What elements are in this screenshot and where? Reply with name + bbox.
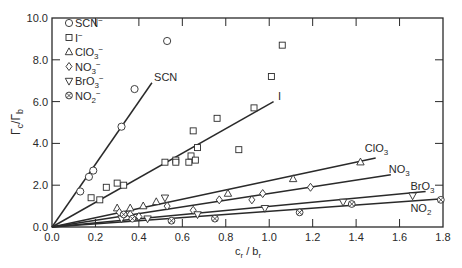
legend-entry: NO3− <box>75 60 101 76</box>
x-tick-label: 1.0 <box>262 231 277 243</box>
y-tick-label: 6.0 <box>33 96 48 108</box>
chart-container: 0.00.20.40.60.81.01.21.41.61.80.02.04.06… <box>0 0 462 268</box>
y-tick-label: 8.0 <box>33 54 48 66</box>
circle-marker-icon <box>77 188 84 195</box>
x-axis-label: cr / br <box>235 245 261 260</box>
y-tick-label: 4.0 <box>33 137 48 149</box>
square-marker-icon <box>103 184 109 190</box>
square-marker-icon <box>251 105 257 111</box>
square-marker-icon <box>279 42 285 48</box>
circle-marker-icon <box>118 123 125 130</box>
fit-line-NO2- <box>52 199 443 227</box>
fit-line-SCN- <box>52 83 152 227</box>
triangle-down-marker-icon <box>65 78 72 85</box>
x-tick-label: 0.4 <box>131 231 146 243</box>
diamond-marker-icon <box>260 190 266 198</box>
circle-marker-icon <box>65 19 72 26</box>
triangle-marker-icon <box>65 48 72 55</box>
square-marker-icon <box>173 159 179 165</box>
circle-x-marker-icon <box>129 215 136 222</box>
y-tick-label: 10.0 <box>27 12 48 24</box>
circle-marker-icon <box>90 167 97 174</box>
triangle-down-marker-icon <box>409 193 416 200</box>
circle-x-marker-icon <box>66 92 73 99</box>
circle-x-marker-icon <box>212 215 219 222</box>
square-marker-icon <box>97 197 103 203</box>
y-tick-label: 2.0 <box>33 179 48 191</box>
triangle-marker-icon <box>153 198 160 205</box>
y-tick-label: 0.0 <box>33 221 48 233</box>
circle-x-marker-icon <box>437 196 444 203</box>
square-marker-icon <box>162 159 168 165</box>
x-tick-label: 1.6 <box>392 231 407 243</box>
square-marker-icon <box>121 182 127 188</box>
square-marker-icon <box>192 157 198 163</box>
triangle-down-marker-icon <box>161 195 168 202</box>
x-tick-label: 1.4 <box>348 231 363 243</box>
legend-entry: SCN− <box>75 16 103 29</box>
square-marker-icon <box>186 159 192 165</box>
series-label: NO3 <box>389 163 411 178</box>
scatter-plot: 0.00.20.40.60.81.01.21.41.61.80.02.04.06… <box>0 0 462 268</box>
circle-x-marker-icon <box>296 209 303 216</box>
circle-marker-icon <box>164 37 171 44</box>
circle-x-marker-icon <box>348 201 355 208</box>
square-marker-icon <box>236 147 242 153</box>
square-marker-icon <box>214 115 220 121</box>
circle-x-marker-icon <box>168 217 175 224</box>
y-axis-label: Γc/Γb <box>9 109 25 135</box>
x-tick-label: 1.8 <box>435 231 450 243</box>
triangle-marker-icon <box>140 202 147 209</box>
circle-marker-icon <box>85 173 92 180</box>
circle-x-marker-icon <box>120 211 127 218</box>
x-tick-label: 0.8 <box>218 231 233 243</box>
circle-marker-icon <box>131 85 138 92</box>
x-tick-label: 0.6 <box>175 231 190 243</box>
data-points <box>77 37 445 224</box>
triangle-down-marker-icon <box>339 199 346 206</box>
diamond-marker-icon <box>216 196 222 204</box>
triangle-down-marker-icon <box>194 212 201 219</box>
legend-entry: I− <box>75 31 83 44</box>
legend: SCN−I−ClO3−NO3−BrO3−NO2− <box>65 16 104 105</box>
series-label: I <box>278 90 281 102</box>
series-line-labels: SCNIClO3NO3BrO3NO2 <box>154 71 435 218</box>
fit-line-BrO3- <box>52 191 426 227</box>
x-tick-label: 1.2 <box>305 231 320 243</box>
series-label: NO2 <box>410 202 432 217</box>
square-marker-icon <box>66 35 72 41</box>
x-tick-label: 0.2 <box>88 231 103 243</box>
square-marker-icon <box>195 145 201 151</box>
square-marker-icon <box>114 180 120 186</box>
square-marker-icon <box>88 195 94 201</box>
square-marker-icon <box>268 74 274 80</box>
diamond-marker-icon <box>307 183 313 191</box>
series-label: ClO3 <box>365 142 389 157</box>
legend-entry: NO2− <box>75 89 101 105</box>
series-label: SCN <box>154 71 177 83</box>
square-marker-icon <box>190 128 196 134</box>
diamond-marker-icon <box>66 63 72 71</box>
